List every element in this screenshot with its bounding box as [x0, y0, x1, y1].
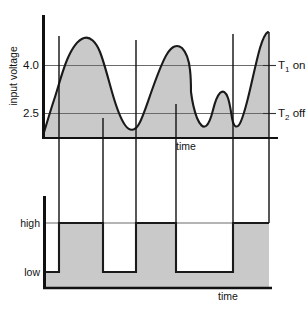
t1-on-base: T	[278, 59, 285, 71]
schmitt-trigger-figure: 4.0 2.5 input voltage time T1 on T2 off	[0, 0, 308, 311]
t1-on-suffix: on	[289, 59, 305, 71]
output-step-area	[45, 223, 270, 288]
upper-ytick-4-0: 4.0	[23, 59, 39, 71]
lower-x-axis-title: time	[218, 290, 238, 302]
upper-x-axis-title: time	[176, 140, 196, 152]
t2-off-base: T	[278, 107, 285, 119]
level-label-high: high	[20, 217, 40, 229]
t2-off-suffix: off	[289, 107, 306, 119]
figure-svg: 4.0 2.5 input voltage time T1 on T2 off	[0, 0, 308, 311]
level-label-low: low	[24, 266, 40, 278]
upper-y-axis-title: input voltage	[7, 46, 19, 106]
upper-ytick-2-5: 2.5	[23, 107, 39, 119]
